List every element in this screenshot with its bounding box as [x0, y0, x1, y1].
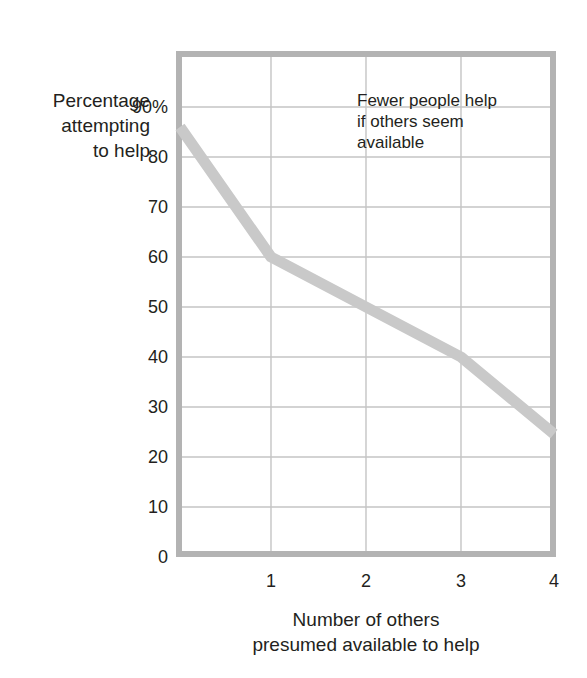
x-axis-title: Number of others presumed available to h…: [176, 607, 556, 657]
chart-annotation: Fewer people help if others seem availab…: [357, 90, 557, 153]
bystander-effect-line-chart: Percentage attempting to help 90% 80 70 …: [0, 0, 587, 678]
x-tick-label-2: 2: [346, 572, 386, 590]
x-tick-label-1: 1: [251, 572, 291, 590]
data-line-series-1: [180, 127, 554, 434]
x-tick-label-3: 3: [441, 572, 481, 590]
x-tick-label-4: 4: [534, 572, 574, 590]
